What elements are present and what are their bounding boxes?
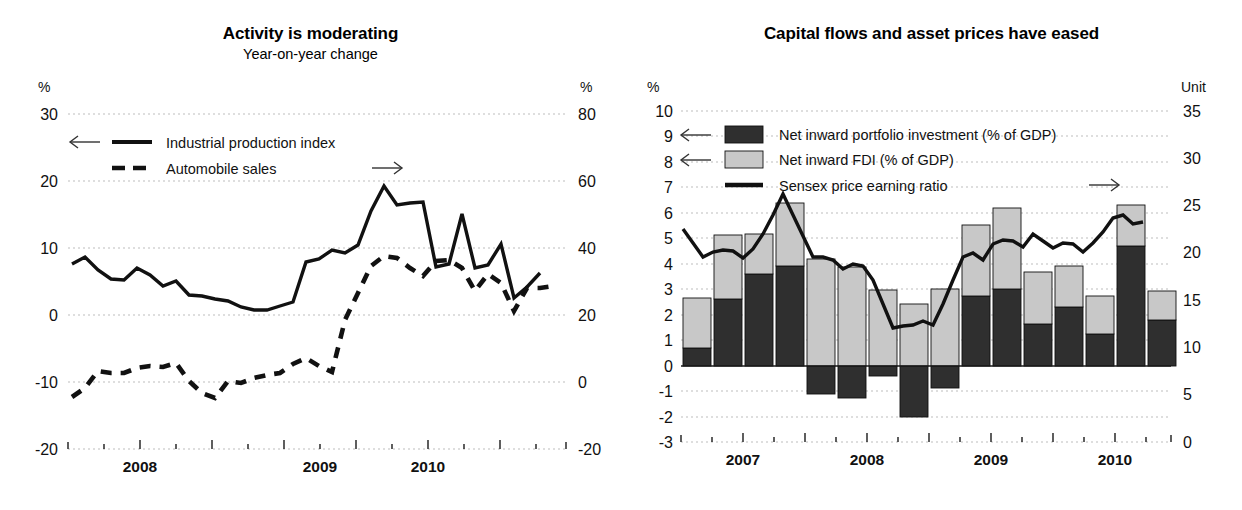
bar-portfolio-2010Q3 [1148,320,1176,366]
right-arrow-icon-sensex [1089,179,1119,191]
xtick2-2008: 2008 [850,451,885,468]
xtick2-2007: 2007 [726,451,760,468]
ytick-left-20: 20 [40,173,58,190]
ytick-right-60: 60 [578,173,596,190]
bar-portfolio-2010Q2 [1117,246,1145,366]
bar-fdi-2007Q1 [714,235,742,299]
ytick-right-0: 0 [578,374,587,391]
bar-fdi-2010Q2 [1117,205,1145,246]
ytick2-left-7: 7 [664,179,673,196]
bar-portfolio-2009Q2 [993,289,1021,366]
legend-label-portfolio-investment: Net inward portfolio investment (% of GD… [779,127,1056,143]
bar-fdi-2008Q1 [838,267,866,366]
ytick2-left-4: 4 [664,256,673,273]
bar-fdi-2010Q3 [1148,291,1176,320]
ytick2-left-0: 0 [664,358,673,375]
ytick2-left-minus2: -2 [659,409,673,426]
ytick-left-10: 10 [40,240,58,257]
ytick2-right-20: 20 [1183,244,1201,261]
ytick-left-0: 0 [49,307,58,324]
ytick-left-minus20: -20 [35,441,58,458]
xtick-2010: 2010 [411,458,445,475]
ytick2-right-30: 30 [1183,150,1201,167]
bar-portfolio-2007Q3 [776,266,804,366]
xtick2-2009: 2009 [974,451,1009,468]
bar-fdi-2006Q4 [683,298,711,348]
ytick2-left-2: 2 [664,307,673,324]
legend-swatch-light [725,151,763,168]
activity-plot: % % 30 20 10 0 -10 -20 80 60 40 20 0 -20 [0,0,621,510]
ytick2-right-35: 35 [1183,103,1201,120]
legend-capital-flows: Net inward portfolio investment (% of GD… [681,126,1119,194]
bar-portfolio-2006Q4 [683,348,711,366]
left-axis-unit-label-2: % [647,79,659,95]
ytick2-left-3: 3 [664,281,673,298]
ytick2-left-9: 9 [664,128,673,145]
left-axis-unit-label: % [38,79,50,95]
bar-fdi-2010Q1 [1086,296,1114,334]
right-axis-unit-label-2: Unit [1181,79,1206,95]
ytick2-left-6: 6 [664,205,673,222]
ytick2-right-25: 25 [1183,197,1201,214]
legend-label-net-inward-fdi: Net inward FDI (% of GDP) [779,152,954,168]
x-axis-ticks-activity [68,440,566,449]
bar-portfolio-2007Q1 [714,299,742,366]
ytick2-right-10: 10 [1183,339,1201,356]
ytick-left-30: 30 [40,106,58,123]
ytick2-left-minus3: -3 [659,434,673,451]
left-arrow-icon-portfolio [681,129,711,141]
xtick2-2010: 2010 [1098,451,1132,468]
ytick2-left-8: 8 [664,154,673,171]
ytick2-left-5: 5 [664,230,673,247]
ytick-right-80: 80 [578,106,596,123]
x-axis-ticks-capital [681,433,1171,442]
bar-portfolio-2008Q3 [900,366,928,417]
bar-portfolio-2009Q1 [962,296,990,366]
legend-label-industrial-production: Industrial production index [166,135,336,151]
ytick-right-minus20: -20 [578,441,601,458]
xtick-2009: 2009 [303,458,338,475]
ytick2-right-0: 0 [1183,434,1192,451]
bar-portfolio-2008Q4 [931,366,959,388]
series-industrial-production-index [72,186,540,310]
legend-label-automobile-sales: Automobile sales [166,161,276,177]
bar-fdi-2009Q3 [1024,272,1052,324]
bar-portfolio-2008Q2 [869,366,897,376]
ytick-right-40: 40 [578,240,596,257]
legend-activity: Industrial production index Automobile s… [70,135,402,177]
ytick-right-20: 20 [578,307,596,324]
bar-fdi-2009Q2 [993,208,1021,289]
capital-flows-plot: % Unit 10 9 8 7 6 5 4 3 2 1 [621,0,1242,510]
bar-portfolio-2009Q4 [1055,307,1083,366]
left-arrow-icon-fdi [681,154,711,166]
ytick2-right-15: 15 [1183,292,1201,309]
bar-fdi-2007Q4 [807,259,835,366]
figure-page: Activity is moderating Year-on-year chan… [0,0,1242,510]
ytick2-left-1: 1 [664,332,673,349]
right-arrow-icon [372,162,402,174]
bar-portfolio-2008Q1 [838,366,866,398]
bar-fdi-2009Q4 [1055,266,1083,307]
right-axis-unit-label: % [580,79,592,95]
xtick-2008: 2008 [123,458,158,475]
series-automobile-sales [72,256,553,398]
ytick2-left-minus1: -1 [659,383,673,400]
bar-fdi-2008Q3 [900,304,928,366]
chart-panel-capital-flows: Capital flows and asset prices have ease… [621,0,1242,510]
chart-panel-activity: Activity is moderating Year-on-year chan… [0,0,621,510]
legend-swatch-dark [725,126,763,143]
legend-label-sensex-pe: Sensex price earning ratio [779,178,947,194]
bar-fdi-2009Q1 [962,225,990,296]
ytick-left-minus10: -10 [35,374,58,391]
ytick2-left-10: 10 [655,103,673,120]
left-arrow-icon [70,136,100,148]
bar-portfolio-2007Q2 [745,274,773,366]
bar-portfolio-2007Q4 [807,366,835,394]
ytick2-right-5: 5 [1183,386,1192,403]
bar-portfolio-2009Q3 [1024,324,1052,366]
bar-portfolio-2010Q1 [1086,334,1114,366]
